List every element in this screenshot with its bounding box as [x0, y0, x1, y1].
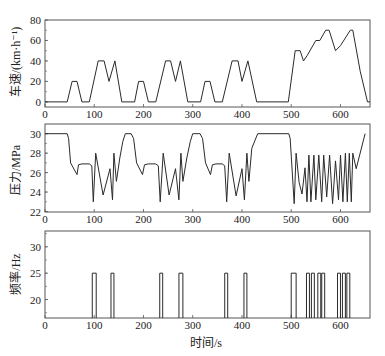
frequency-panel: 0100200300400500600202530 — [30, 231, 370, 331]
speed-panel: 0100200300400500600020406080 — [30, 14, 370, 120]
frequency-pulse — [244, 273, 247, 318]
pressure-panel: 01002003004005006002224262830 — [30, 124, 370, 225]
y-tick-label: 26 — [30, 167, 42, 179]
y-tick-label: 28 — [30, 147, 42, 159]
y-tick-label: 22 — [30, 206, 41, 218]
y-tick-label: 60 — [30, 34, 42, 46]
x-tick-label: 400 — [234, 319, 251, 331]
y-tick-label: 25 — [30, 267, 42, 279]
y-tick-label: 40 — [30, 55, 42, 67]
x-tick-label: 600 — [332, 213, 349, 225]
frequency-pulse — [342, 273, 345, 318]
frequency-pulse — [225, 273, 228, 318]
x-tick-label: 600 — [332, 108, 349, 120]
x-tick-label: 300 — [184, 319, 201, 331]
frequency-pulse — [338, 273, 341, 318]
frequency-pulse — [92, 273, 96, 318]
frequency-axis-label: 频率/Hz — [8, 253, 23, 294]
x-tick-label: 500 — [283, 108, 300, 120]
y-tick-label: 20 — [30, 75, 42, 87]
y-tick-label: 30 — [30, 128, 42, 140]
data-line — [45, 30, 370, 102]
x-tick-label: 0 — [42, 108, 48, 120]
x-tick-label: 200 — [135, 319, 152, 331]
x-tick-label: 400 — [234, 213, 251, 225]
x-tick-label: 0 — [42, 319, 48, 331]
frequency-pulse — [291, 273, 296, 318]
y-tick-label: 80 — [30, 14, 42, 26]
x-tick-label: 100 — [86, 319, 103, 331]
data-line — [45, 134, 365, 204]
x-tick-label: 0 — [42, 213, 48, 225]
frequency-pulse — [179, 273, 183, 318]
chart: 0100200300400500600020406080 01002003004… — [0, 0, 385, 356]
x-tick-label: 200 — [135, 213, 152, 225]
plot-frame — [45, 20, 370, 107]
x-tick-label: 500 — [283, 319, 300, 331]
frequency-pulse — [322, 273, 325, 318]
pressure-axis-label: 压力/MPa — [9, 144, 23, 195]
x-tick-label: 100 — [86, 108, 103, 120]
frequency-pulse — [311, 273, 314, 318]
x-tick-label: 100 — [86, 213, 103, 225]
y-tick-label: 20 — [30, 294, 42, 306]
y-tick-label: 30 — [30, 241, 42, 253]
x-tick-label: 200 — [135, 108, 152, 120]
x-tick-label: 600 — [332, 319, 349, 331]
x-tick-label: 300 — [184, 108, 201, 120]
y-tick-label: 24 — [30, 186, 42, 198]
frequency-pulse — [318, 273, 321, 318]
frequency-pulse — [306, 273, 309, 318]
frequency-pulse — [347, 273, 350, 318]
frequency-pulse — [111, 273, 114, 318]
x-tick-label: 500 — [283, 213, 300, 225]
time-axis-label: 时间/s — [190, 336, 222, 350]
x-tick-label: 300 — [184, 213, 201, 225]
y-tick-label: 0 — [36, 96, 42, 108]
x-tick-label: 400 — [234, 108, 251, 120]
speed-axis-label: 车速/(km·h⁻¹) — [8, 27, 23, 98]
frequency-pulse — [160, 273, 163, 318]
